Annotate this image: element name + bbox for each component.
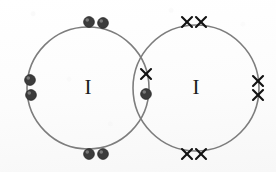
electron-dot-icon bbox=[141, 89, 152, 100]
electron-dot-highlight bbox=[99, 19, 103, 23]
electron-dot-highlight bbox=[85, 150, 89, 154]
dot-and-cross-diagram: II bbox=[0, 0, 276, 172]
electron-dot-icon bbox=[98, 18, 109, 29]
electron-group-right-lone-pair-right bbox=[253, 76, 263, 100]
electron-group-left-lone-pair-bottom bbox=[84, 149, 109, 160]
electron-group-shared-bonding-pair-dot bbox=[141, 89, 152, 100]
electron-dot-icon bbox=[25, 75, 36, 86]
electron-shell-rings bbox=[27, 25, 259, 151]
electron-dot-highlight bbox=[27, 91, 31, 95]
electron-group-left-lone-pair-top bbox=[84, 17, 109, 29]
electron-dot-highlight bbox=[142, 90, 146, 94]
diagram-canvas: II bbox=[0, 0, 276, 172]
atom-symbol-left-atom: I bbox=[85, 75, 92, 99]
electron-dot-icon bbox=[84, 149, 95, 160]
electron-dot-highlight bbox=[99, 150, 103, 154]
electron-dot-icon bbox=[98, 149, 109, 160]
electron-dot-highlight bbox=[26, 76, 30, 80]
valence-electrons bbox=[25, 17, 263, 160]
electron-dot-icon bbox=[84, 17, 95, 28]
electron-dot-icon bbox=[26, 90, 37, 101]
atom-symbol-right-atom: I bbox=[193, 75, 200, 99]
electron-dot-highlight bbox=[85, 18, 89, 22]
